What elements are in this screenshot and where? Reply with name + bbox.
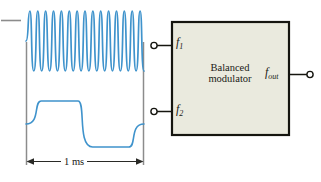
waveform-modulating-f2 xyxy=(26,101,144,147)
figure-canvas: Balanced modulator f1 f2 fout 1 ms xyxy=(0,0,321,182)
terminal-fout[interactable] xyxy=(307,71,313,77)
terminal-f2[interactable] xyxy=(151,108,157,114)
waveform-carrier-f1 xyxy=(26,11,144,71)
dimension-label-1ms: 1 ms xyxy=(61,156,87,167)
dimension-arrow-right-icon xyxy=(136,158,144,164)
block-title: Balanced modulator xyxy=(197,62,263,84)
port-label-f2-subscript: 2 xyxy=(179,109,183,118)
balanced-modulator-diagram xyxy=(0,0,321,182)
terminal-f1[interactable] xyxy=(151,42,157,48)
port-label-f1-subscript: 1 xyxy=(179,42,183,51)
dimension-arrow-left-icon xyxy=(27,158,35,164)
port-label-f2: f2 xyxy=(176,103,183,116)
port-label-fout: fout xyxy=(265,66,279,79)
port-label-f1: f1 xyxy=(176,36,183,49)
block-title-line1: Balanced xyxy=(197,62,263,73)
port-label-fout-subscript: out xyxy=(268,72,278,81)
block-title-line2: modulator xyxy=(197,73,263,84)
